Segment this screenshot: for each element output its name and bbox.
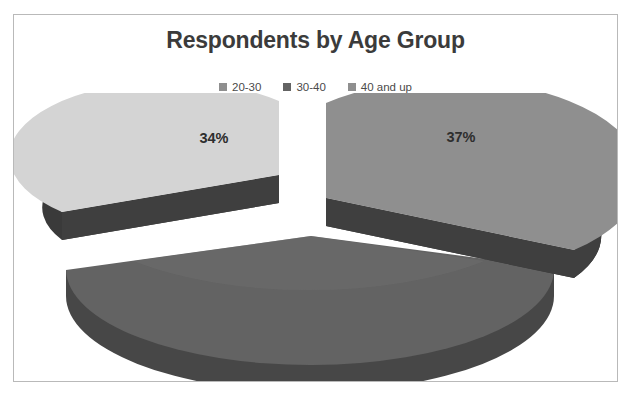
- legend-label: 40 and up: [361, 81, 412, 93]
- chart-legend: 20-30 30-40 40 and up: [14, 81, 617, 93]
- pie-chart-svg: 34% 37%: [14, 93, 618, 382]
- legend-label: 20-30: [232, 81, 261, 93]
- legend-swatch-icon: [348, 83, 356, 91]
- legend-item-20-30[interactable]: 20-30: [219, 81, 261, 93]
- legend-item-30-40[interactable]: 30-40: [283, 81, 325, 93]
- pie-label-20-30: 37%: [446, 129, 475, 145]
- pie-chart-plot-area: 34% 37%: [14, 93, 618, 382]
- caption-strip: [13, 383, 618, 394]
- chart-title: Respondents by Age Group: [14, 27, 617, 54]
- legend-swatch-icon: [219, 83, 227, 91]
- legend-swatch-icon: [283, 83, 291, 91]
- legend-label: 30-40: [296, 81, 325, 93]
- legend-item-40-and-up[interactable]: 40 and up: [348, 81, 412, 93]
- pie-slice-40-and-up[interactable]: [14, 93, 279, 240]
- chart-frame: Respondents by Age Group 20-30 30-40 40 …: [13, 14, 618, 382]
- pie-label-40-and-up: 34%: [199, 130, 228, 146]
